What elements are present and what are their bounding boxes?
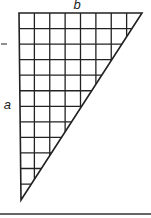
label-b: b bbox=[73, 0, 80, 12]
label-a: a bbox=[4, 97, 11, 112]
grid-lines bbox=[0, 13, 151, 210]
triangle-grid-diagram: b a bbox=[0, 0, 151, 218]
